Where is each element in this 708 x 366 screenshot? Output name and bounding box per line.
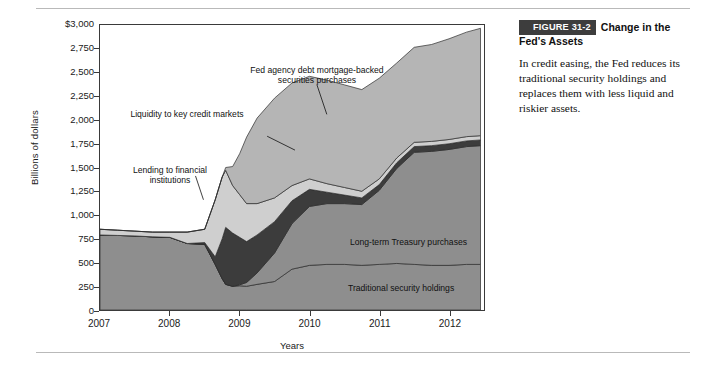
y-tick-label: 2,750 (40, 43, 94, 53)
x-tick-mark (380, 311, 381, 316)
x-tick-label: 2007 (88, 318, 110, 329)
plot-area: Fed agency debt mortgage-backed securiti… (99, 24, 485, 311)
x-tick-mark (169, 311, 170, 316)
annotation-long-term-treasury: Long-term Treasury purchases (350, 237, 490, 247)
y-tick-label: 250 (40, 282, 94, 292)
annotation-liquidity: Liquidity to key credit markets (128, 109, 246, 119)
y-tick-label: 2,250 (40, 91, 94, 101)
annotation-traditional-holdings: Traditional security holdings (348, 283, 498, 293)
y-tick-label: 2,500 (40, 67, 94, 77)
x-tick-label: 2011 (369, 318, 391, 329)
top-divider-rule (36, 8, 690, 9)
y-tick-label: 0 (40, 306, 94, 316)
bottom-divider-rule (36, 352, 690, 353)
x-tick-label: 2012 (439, 318, 461, 329)
y-tick-label: 500 (40, 258, 94, 268)
x-tick-label: 2010 (298, 318, 320, 329)
y-tick-label: 1,750 (40, 139, 94, 149)
x-tick-label: 2008 (158, 318, 180, 329)
chart-panel: Billions of dollars $3,0002,7502,5002,25… (22, 14, 492, 344)
x-tick-label: 2009 (228, 318, 250, 329)
figure-number-badge: FIGURE 31-2 (519, 20, 596, 35)
y-tick-label: 2,000 (40, 115, 94, 125)
x-tick-mark (239, 311, 240, 316)
caption-body-text: In credit easing, the Fed reduces its tr… (519, 56, 697, 116)
y-tick-label: 1,250 (40, 186, 94, 196)
y-axis-ticks: $3,0002,7502,5002,2502,0001,7501,5001,25… (22, 14, 94, 321)
figure-caption: FIGURE 31-2Change in the Fed's Assets In… (519, 20, 697, 115)
y-tick-label: 1,000 (40, 210, 94, 220)
y-tick-label: 1,500 (40, 163, 94, 173)
x-tick-mark (310, 311, 311, 316)
caption-heading: FIGURE 31-2Change in the Fed's Assets (519, 20, 697, 49)
figure-container: Billions of dollars $3,0002,7502,5002,25… (0, 0, 708, 366)
x-axis-title: Years (99, 340, 485, 351)
y-tick-label: $3,000 (40, 19, 94, 29)
annotation-fed-agency-mbs: Fed agency debt mortgage-backed securiti… (232, 65, 402, 86)
x-tick-mark (450, 311, 451, 316)
y-tick-label: 750 (40, 234, 94, 244)
annotation-lending: Lending to financial institutions (122, 165, 218, 186)
